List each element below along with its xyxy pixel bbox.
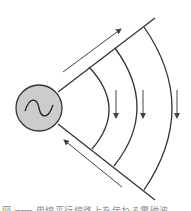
current-arrows — [63, 29, 122, 187]
wavefront-1 — [89, 67, 109, 149]
wavefront-2 — [114, 48, 137, 166]
lower-conductor — [58, 124, 155, 200]
figure-caption: 図 ─── 単線平行線路上を伝わる電磁波 — [2, 203, 191, 211]
wavefronts — [89, 27, 172, 190]
conductors — [58, 18, 155, 200]
field-arrows — [116, 90, 177, 118]
ac-source-icon — [16, 85, 62, 131]
transmission-line-diagram — [0, 0, 191, 211]
wavefront-3 — [144, 27, 172, 190]
upper-conductor — [58, 18, 155, 92]
